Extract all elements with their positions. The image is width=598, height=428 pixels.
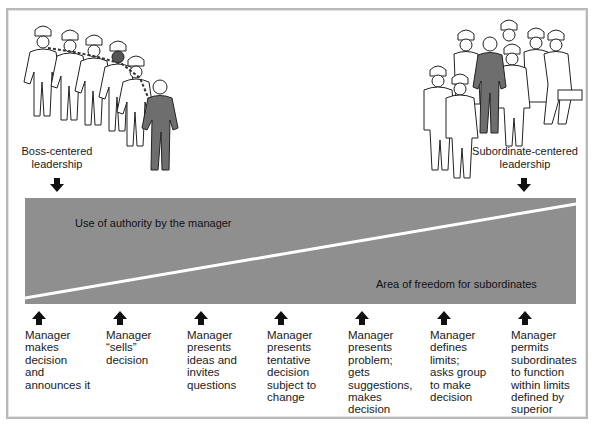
step-line: decision: [430, 391, 510, 403]
step-line: limits;: [430, 354, 510, 366]
step-presents-problem: Manager presents problem; gets suggestio…: [348, 311, 428, 416]
step-tentative-decision: Manager presents tentative decision subj…: [267, 311, 347, 403]
step-line: makes: [348, 391, 428, 403]
subordinate-centered-label-line1: Subordinate-centered: [470, 145, 580, 158]
step-consults-ideas: Manager presents ideas and invites quest…: [187, 311, 267, 391]
up-arrow-icon: [355, 311, 369, 325]
step-line: Manager: [25, 329, 105, 341]
step-line: within limits: [511, 379, 591, 391]
boss-centered-label: Boss-centered leadership: [20, 145, 94, 171]
boss-centered-label-line1: Boss-centered: [20, 145, 94, 158]
step-line: defined by: [511, 391, 591, 403]
step-line: subordinates: [511, 354, 591, 366]
step-line: questions: [187, 379, 267, 391]
step-line: tentative: [267, 354, 347, 366]
authority-freedom-band: Use of authority by the manager Area of …: [25, 198, 576, 304]
step-line: to make: [430, 379, 510, 391]
step-line: asks group: [430, 366, 510, 378]
step-line: Manager: [187, 329, 267, 341]
step-line: superior: [511, 403, 591, 415]
step-line: problem;: [348, 354, 428, 366]
step-line: announces it: [25, 379, 105, 391]
step-line: suggestions,: [348, 379, 428, 391]
up-arrow-icon: [32, 311, 46, 325]
step-permits-subordinates: Manager permits subordinates to function…: [511, 311, 591, 416]
step-line: Manager: [348, 329, 428, 341]
step-defines-limits: Manager defines limits; asks group to ma…: [430, 311, 510, 403]
step-line: invites: [187, 366, 267, 378]
freedom-region-label: Area of freedom for subordinates: [376, 278, 537, 290]
step-description: Manager presents tentative decision subj…: [267, 329, 347, 403]
down-arrow-icon: [517, 178, 531, 192]
step-description: Manager presents ideas and invites quest…: [187, 329, 267, 391]
step-line: Manager: [511, 329, 591, 341]
step-description: Manager “sells” decision: [106, 329, 186, 366]
step-line: change: [267, 391, 347, 403]
step-line: presents: [267, 341, 347, 353]
step-description: Manager defines limits; asks group to ma…: [430, 329, 510, 403]
step-line: Manager: [430, 329, 510, 341]
step-line: subject to: [267, 379, 347, 391]
step-line: to function: [511, 366, 591, 378]
step-line: decision: [267, 366, 347, 378]
step-description: Manager presents problem; gets suggestio…: [348, 329, 428, 416]
subordinate-centered-label-line2: leadership: [470, 158, 580, 171]
up-arrow-icon: [113, 311, 127, 325]
step-line: decision: [106, 354, 186, 366]
up-arrow-icon: [518, 311, 532, 325]
step-line: presents: [187, 341, 267, 353]
subordinate-centered-label: Subordinate-centered leadership: [470, 145, 580, 171]
step-line: Manager: [106, 329, 186, 341]
step-line: gets: [348, 366, 428, 378]
step-line: decision: [348, 403, 428, 415]
step-line: ideas and: [187, 354, 267, 366]
up-arrow-icon: [274, 311, 288, 325]
boss-centered-label-line2: leadership: [20, 158, 94, 171]
down-arrow-icon: [50, 178, 64, 192]
step-line: Manager: [267, 329, 347, 341]
step-description: Manager permits subordinates to function…: [511, 329, 591, 416]
authority-region-label: Use of authority by the manager: [75, 217, 232, 229]
step-line: and: [25, 366, 105, 378]
step-line: permits: [511, 341, 591, 353]
step-tells: Manager makes decision and announces it: [25, 311, 105, 391]
step-line: “sells”: [106, 341, 186, 353]
step-sells: Manager “sells” decision: [106, 311, 186, 366]
up-arrow-icon: [194, 311, 208, 325]
step-line: defines: [430, 341, 510, 353]
step-description: Manager makes decision and announces it: [25, 329, 105, 391]
up-arrow-icon: [437, 311, 451, 325]
step-line: presents: [348, 341, 428, 353]
step-line: decision: [25, 354, 105, 366]
step-line: makes: [25, 341, 105, 353]
